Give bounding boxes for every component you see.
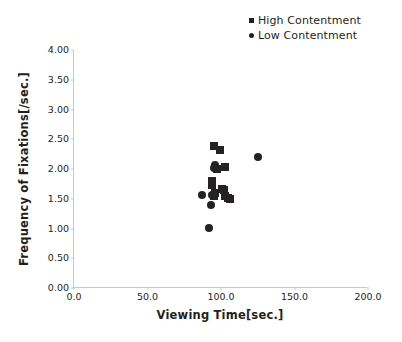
y-axis-title-text: Frequency of Fixations[/sec.] bbox=[17, 72, 31, 266]
data-point-low-contentment bbox=[208, 191, 216, 199]
y-axis-tick-label: 0.50 bbox=[48, 253, 69, 263]
data-points-layer bbox=[74, 50, 367, 287]
x-axis-tick-label: 150.0 bbox=[281, 292, 308, 302]
x-axis-tick-mark bbox=[368, 287, 369, 290]
y-axis-tick-label: 3.00 bbox=[48, 105, 69, 115]
legend-item-low-contentment: Low Contentment bbox=[244, 28, 394, 43]
data-point-high-contentment bbox=[216, 146, 224, 154]
legend-label-high-contentment: High Contentment bbox=[258, 14, 361, 27]
data-point-low-contentment bbox=[198, 191, 206, 199]
chart-legend: High Contentment Low Contentment bbox=[244, 13, 394, 43]
legend-square-marker-icon bbox=[244, 18, 258, 23]
legend-circle-marker-icon bbox=[244, 33, 258, 38]
x-axis-tick-mark bbox=[221, 287, 222, 290]
data-point-low-contentment bbox=[207, 201, 215, 209]
scatter-chart-figure: High Contentment Low Contentment Frequen… bbox=[0, 0, 402, 342]
y-axis-tick-label: 3.50 bbox=[48, 75, 69, 85]
x-axis-tick-label: 0.0 bbox=[66, 292, 81, 302]
y-axis-tick-label: 2.50 bbox=[48, 134, 69, 144]
plot-area: 0.000.501.001.502.002.503.003.504.00 0.0… bbox=[73, 50, 367, 288]
data-point-low-contentment bbox=[205, 224, 213, 232]
y-axis-title: Frequency of Fixations[/sec.] bbox=[16, 50, 32, 288]
data-point-low-contentment bbox=[254, 153, 262, 161]
data-point-high-contentment bbox=[226, 195, 234, 203]
x-axis-tick-label: 200.0 bbox=[354, 292, 381, 302]
x-axis-tick-label: 50.0 bbox=[137, 292, 158, 302]
y-axis-tick-label: 1.00 bbox=[48, 224, 69, 234]
legend-label-low-contentment: Low Contentment bbox=[258, 29, 357, 42]
x-axis-tick-mark bbox=[147, 287, 148, 290]
y-axis-tick-label: 4.00 bbox=[48, 45, 69, 55]
data-point-high-contentment bbox=[208, 181, 216, 189]
x-axis-tick-mark bbox=[74, 287, 75, 290]
x-axis-title: Viewing Time[sec.] bbox=[73, 308, 367, 322]
y-axis-tick-label: 2.00 bbox=[48, 164, 69, 174]
data-point-low-contentment bbox=[210, 164, 218, 172]
legend-item-high-contentment: High Contentment bbox=[244, 13, 394, 28]
data-point-high-contentment bbox=[221, 163, 229, 171]
x-axis-tick-mark bbox=[294, 287, 295, 290]
x-axis-tick-label: 100.0 bbox=[207, 292, 234, 302]
y-axis-tick-label: 1.50 bbox=[48, 194, 69, 204]
